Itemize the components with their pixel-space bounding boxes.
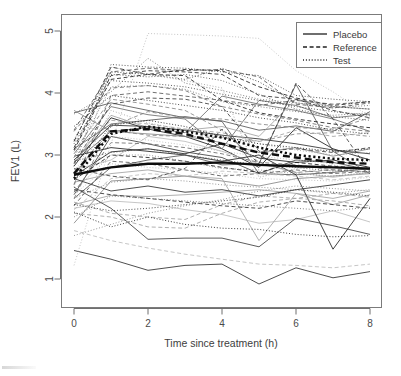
scan-artifact <box>2 366 36 369</box>
legend-label: Placebo <box>333 29 367 40</box>
x-tick-label: 0 <box>71 318 77 329</box>
y-tick-label: 2 <box>44 214 55 220</box>
y-tick-label: 5 <box>44 28 55 34</box>
legend-label: Test <box>333 55 351 66</box>
x-axis-title: Time since treatment (h) <box>164 337 277 349</box>
plot-canvas: 02468 12345 Time since treatment (h) FEV… <box>0 0 401 376</box>
x-tick-label: 8 <box>367 318 373 329</box>
y-tick-label: 1 <box>44 276 55 282</box>
x-tick-label: 6 <box>293 318 299 329</box>
x-tick-label: 2 <box>145 318 151 329</box>
y-tick-label: 3 <box>44 152 55 158</box>
y-tick-label: 4 <box>44 90 55 96</box>
y-axis-title: FEV1 (L) <box>9 140 21 182</box>
x-tick-label: 4 <box>219 318 225 329</box>
legend-label: Reference <box>333 42 377 53</box>
fev1-spaghetti-plot-figure: 02468 12345 Time since treatment (h) FEV… <box>0 0 401 376</box>
legend[interactable]: PlaceboReferenceTest <box>297 23 382 68</box>
